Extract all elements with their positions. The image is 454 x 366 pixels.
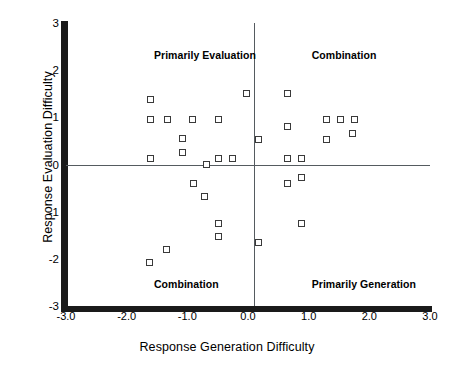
quadrant-label-lower-left: Combination [154,278,219,290]
x-axis-tick-label: -3.0 [57,310,76,322]
x-axis-tick-label: 2.0 [362,310,377,322]
data-point [215,116,222,123]
data-point [349,130,356,137]
data-point [147,116,154,123]
data-point [179,135,186,142]
y-axis-tick-label: 3 [53,17,59,29]
x-axis-tick-label: -2.0 [117,310,136,322]
data-point [147,96,154,103]
data-point [201,193,208,200]
data-point [255,239,262,246]
y-axis-tick-label: -2 [49,253,59,265]
data-point [351,116,358,123]
y-axis-tick-label: 2 [53,64,59,76]
data-point [163,246,170,253]
data-point [189,116,196,123]
data-point [255,136,262,143]
data-point [298,174,305,181]
data-point [337,116,344,123]
y-axis-tick-label: 1 [53,111,59,123]
data-point [284,123,291,130]
horizontal-reference-line [66,165,430,166]
x-axis-tick-label: 0.0 [240,310,255,322]
quadrant-label-lower-right: Primarily Generation [312,278,416,290]
data-point [190,180,197,187]
data-point [229,155,236,162]
x-axis-title: Response Generation Difficulty [0,340,454,354]
plot-area: 3210-1-2-3 -3.0-2.0-1.00.01.02.03.0 Prim… [66,23,430,306]
scatter-plot-figure: Response Evaluation Difficulty Response … [0,0,454,366]
data-point [203,161,210,168]
x-axis-tick-label: -1.0 [178,310,197,322]
data-point [179,149,186,156]
data-point [215,220,222,227]
data-point [215,155,222,162]
data-point [323,116,330,123]
data-point [284,155,291,162]
data-point [215,233,222,240]
data-point [298,155,305,162]
y-axis-tick-label: 0 [53,159,59,171]
x-axis-tick-label: 3.0 [422,310,437,322]
data-point [284,90,291,97]
data-point [146,259,153,266]
data-point [243,90,250,97]
vertical-reference-line [254,23,255,306]
quadrant-label-upper-left: Primarily Evaluation [154,49,256,61]
quadrant-label-upper-right: Combination [312,49,377,61]
y-axis-tick-label: -1 [49,206,59,218]
data-point [164,116,171,123]
data-point [298,220,305,227]
x-axis-tick-label: 1.0 [301,310,316,322]
data-point [323,136,330,143]
data-point [147,155,154,162]
data-point [284,180,291,187]
